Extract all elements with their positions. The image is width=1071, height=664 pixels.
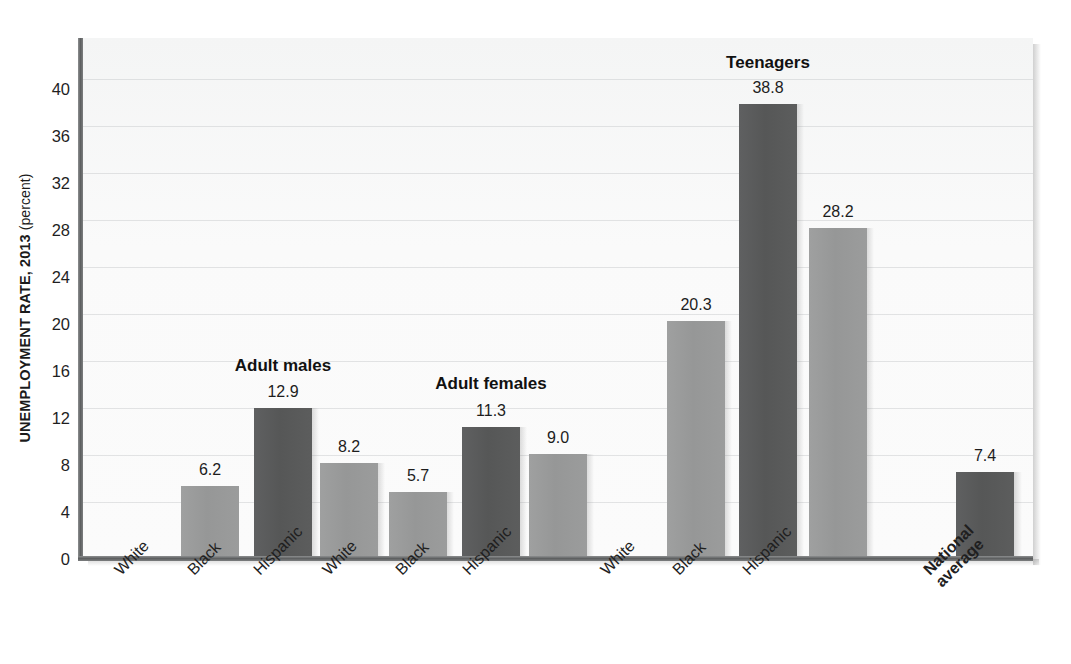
value-label-national-average: 7.4: [974, 447, 996, 465]
value-label-adult-females-hispanic: 9.0: [547, 429, 569, 447]
y-axis-line: [78, 38, 83, 561]
value-label-adult-males-white: 6.2: [199, 461, 221, 479]
unemployment-rate-bar-chart: UNEMPLOYMENT RATE, 2013 (percent): [0, 0, 1071, 664]
plot-right-shadow: [1033, 44, 1041, 565]
y-tick-36: 36: [26, 127, 70, 146]
value-label-adult-males-hispanic: 8.2: [338, 438, 360, 456]
x-axis-line: [78, 556, 1033, 561]
group-title-adult-females: Adult females: [435, 374, 546, 394]
bar-teenagers-black[interactable]: [739, 104, 797, 559]
value-label-adult-females-black: 11.3: [476, 402, 506, 420]
value-label-teenagers-white: 20.3: [680, 296, 711, 314]
value-label-adult-males-black: 12.9: [267, 383, 298, 401]
value-label-adult-females-white: 5.7: [407, 467, 429, 485]
group-title-adult-males: Adult males: [235, 356, 331, 376]
y-axis-tick-labels: 0 4 8 12 16 20 24 28 32 36 40: [18, 0, 70, 664]
group-title-teenagers: Teenagers: [726, 53, 810, 73]
bar-adult-females-hispanic[interactable]: [529, 454, 587, 559]
y-tick-16: 16: [26, 362, 70, 381]
bar-teenagers-white[interactable]: [667, 321, 725, 559]
y-tick-32: 32: [26, 174, 70, 193]
y-tick-40: 40: [26, 80, 70, 99]
bars-layer: [82, 38, 1033, 559]
y-tick-28: 28: [26, 221, 70, 240]
y-tick-0: 0: [26, 550, 70, 569]
y-tick-4: 4: [26, 503, 70, 522]
y-tick-12: 12: [26, 409, 70, 428]
y-tick-8: 8: [26, 456, 70, 475]
value-label-teenagers-hispanic: 28.2: [822, 203, 853, 221]
y-tick-24: 24: [26, 268, 70, 287]
value-label-teenagers-black: 38.8: [752, 79, 783, 97]
y-tick-20: 20: [26, 315, 70, 334]
bar-teenagers-hispanic[interactable]: [809, 228, 867, 559]
